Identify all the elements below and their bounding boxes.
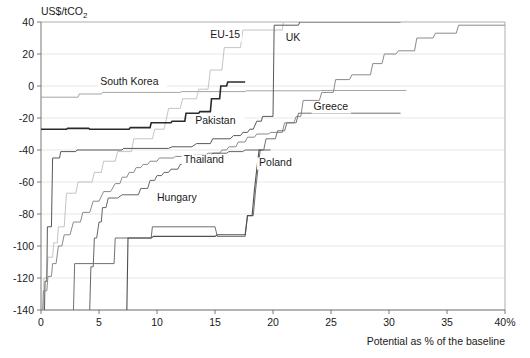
series-label-south-korea: South Korea xyxy=(100,75,159,87)
x-axis-ticks: 0510152025303540% xyxy=(38,310,515,328)
x-tick-label: 25 xyxy=(325,316,337,328)
series-label-hungary: Hungary xyxy=(157,191,197,203)
y-tick-label: -80 xyxy=(19,208,34,220)
abatement-cost-chart: 40200-20-40-60-80-100-120-140 0510152025… xyxy=(0,0,530,358)
series-line-south-korea xyxy=(41,90,406,97)
x-tick-label: 10 xyxy=(151,316,163,328)
y-tick-label: -140 xyxy=(13,304,34,316)
x-tick-label: 5 xyxy=(96,316,102,328)
series-label-uk: UK xyxy=(286,31,301,43)
series-label-thailand: Thailand xyxy=(184,153,224,165)
x-tick-label: 30 xyxy=(383,316,395,328)
y-tick-label: 0 xyxy=(28,80,34,92)
series-line-thailand xyxy=(73,113,400,310)
y-tick-label: -100 xyxy=(13,240,34,252)
y-tick-label: -120 xyxy=(13,272,34,284)
series-label-greece: Greece xyxy=(314,100,349,112)
y-axis-ticks: 40200-20-40-60-80-100-120-140 xyxy=(13,16,41,316)
series-line-eu-15 xyxy=(43,22,283,310)
y-tick-label: 20 xyxy=(22,48,34,60)
x-tick-label: 20 xyxy=(267,316,279,328)
chart-container: 40200-20-40-60-80-100-120-140 0510152025… xyxy=(0,0,530,358)
series-labels: South KoreaEU-15PakistanUKGreeceThailand… xyxy=(98,28,351,205)
x-tick-label: 35 xyxy=(441,316,453,328)
x-tick-label: 15 xyxy=(209,316,221,328)
y-tick-label: -40 xyxy=(19,144,34,156)
y-tick-label: 40 xyxy=(22,16,34,28)
x-tick-label: 40% xyxy=(494,316,515,328)
y-axis-title: US$/tCO2 xyxy=(41,5,88,20)
y-tick-label: -60 xyxy=(19,176,34,188)
y-tick-label: -20 xyxy=(19,112,34,124)
series-label-eu-15: EU-15 xyxy=(210,28,240,40)
series-label-pakistan: Pakistan xyxy=(195,114,235,126)
x-tick-label: 0 xyxy=(38,316,44,328)
series-line-hungary xyxy=(127,150,262,310)
x-axis-title: Potential as % of the baseline xyxy=(367,335,506,347)
series-label-poland: Poland xyxy=(259,156,292,168)
series-line-poland xyxy=(90,150,271,310)
